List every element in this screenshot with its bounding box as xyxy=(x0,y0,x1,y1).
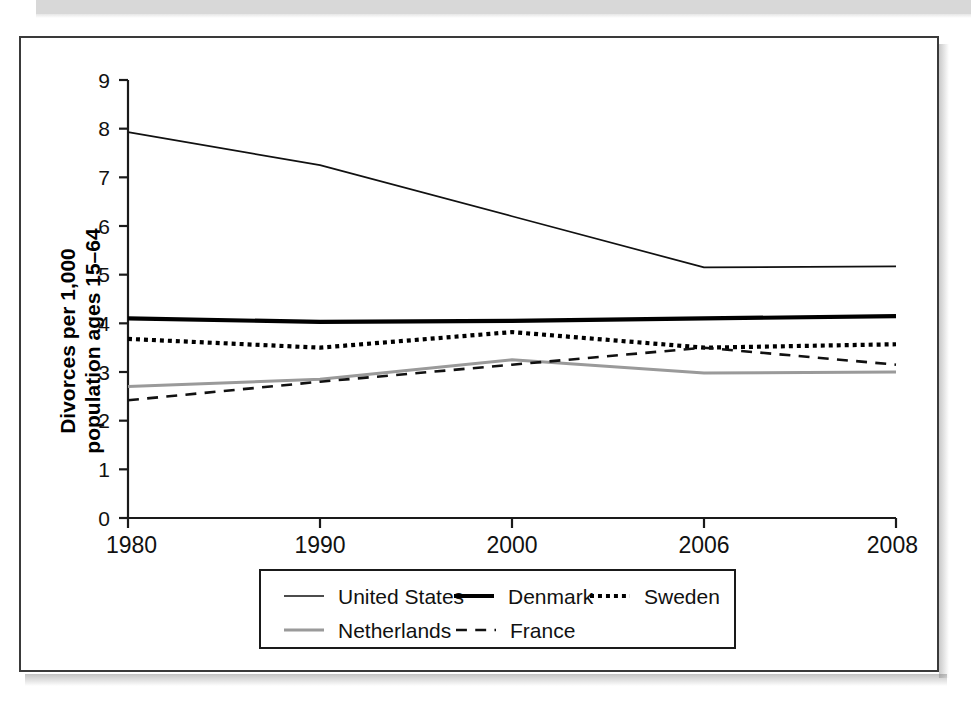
x-tick-label: 1990 xyxy=(294,532,345,558)
y-tick-label: 6 xyxy=(98,215,110,238)
line-chart: Divorces per 1,000 population ages 15–64… xyxy=(19,36,939,672)
y-tick-label: 9 xyxy=(98,69,110,92)
legend-box xyxy=(260,570,735,648)
series-line-united-states xyxy=(128,132,896,267)
x-tick-label: 1980 xyxy=(106,532,157,558)
figure-drop-shadow-right xyxy=(939,44,949,678)
x-tick-label: 2000 xyxy=(486,532,537,558)
x-tick-label: 2008 xyxy=(867,532,918,558)
series-line-sweden xyxy=(128,332,896,348)
y-tick-label: 2 xyxy=(98,409,110,432)
y-axis-title-line1: Divorces per 1,000 xyxy=(56,248,79,434)
scan-band xyxy=(36,0,971,14)
y-tick-label: 4 xyxy=(98,312,110,335)
x-axis-ticks: 19801990200020062008 xyxy=(106,518,918,558)
chart-legend: United StatesDenmarkSwedenNetherlandsFra… xyxy=(260,570,735,648)
y-tick-label: 7 xyxy=(98,166,110,189)
series-group xyxy=(128,132,896,400)
y-tick-label: 3 xyxy=(98,361,110,384)
series-line-denmark xyxy=(128,316,896,322)
figure-drop-shadow-bottom xyxy=(25,674,947,686)
scan-band-fade xyxy=(36,14,971,18)
x-tick-label: 2006 xyxy=(678,532,729,558)
y-tick-label: 8 xyxy=(98,117,110,140)
legend-label-sweden: Sweden xyxy=(644,585,720,608)
y-tick-label: 5 xyxy=(98,263,110,286)
legend-label-netherlands: Netherlands xyxy=(338,619,451,642)
legend-label-france: France xyxy=(510,619,575,642)
y-axis-title: Divorces per 1,000 population ages 15–64 xyxy=(56,228,104,454)
y-tick-label: 1 xyxy=(98,458,110,481)
y-tick-label: 0 xyxy=(98,507,110,530)
legend-label-united-states: United States xyxy=(338,585,464,608)
legend-label-denmark: Denmark xyxy=(508,585,594,608)
